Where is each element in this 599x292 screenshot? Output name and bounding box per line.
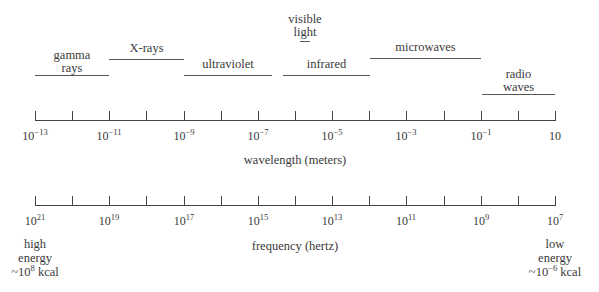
wavelength-tick-label: 10−9 [173, 129, 194, 144]
low-energy-line1: low [529, 237, 581, 251]
frequency-tick [35, 196, 36, 206]
frequency-tick [369, 196, 370, 206]
wavelength-tick [518, 111, 519, 121]
wavelength-tick-label: 10−5 [321, 129, 342, 144]
frequency-tick-label: 1011 [396, 214, 416, 229]
frequency-tick [481, 196, 482, 206]
band-label-line2: waves [503, 81, 534, 94]
wavelength-tick [109, 111, 110, 121]
wavelength-tick [221, 111, 222, 121]
wavelength-tick-label: 10−7 [247, 129, 268, 144]
frequency-tick-label: 1019 [99, 214, 120, 229]
band-line-visible [300, 41, 310, 42]
frequency-tick [406, 196, 407, 206]
frequency-tick [444, 196, 445, 206]
frequency-tick [332, 196, 333, 206]
wavelength-axis-title: wavelength (meters) [244, 153, 346, 168]
wavelength-tick [369, 111, 370, 121]
wavelength-tick-label: 10−1 [470, 129, 491, 144]
band-label-xrays: X-rays [129, 42, 163, 55]
wavelength-tick [444, 111, 445, 121]
band-label-gamma: gammarays [54, 49, 91, 75]
wavelength-tick-label: 10−13 [22, 129, 47, 144]
frequency-tick [258, 196, 259, 206]
frequency-tick [146, 196, 147, 206]
frequency-tick-label: 1013 [322, 214, 343, 229]
band-label-line2: light [288, 26, 321, 39]
band-label-line1: microwaves [395, 41, 455, 54]
high-energy-line1: high [11, 237, 58, 251]
band-line-gamma [35, 75, 109, 76]
frequency-tick [295, 196, 296, 206]
wavelength-tick [481, 111, 482, 121]
frequency-tick [72, 196, 73, 206]
wavelength-tick [35, 111, 36, 121]
frequency-tick-label: 107 [547, 214, 563, 229]
frequency-tick-label: 1021 [25, 214, 46, 229]
band-line-microwaves [370, 58, 481, 59]
frequency-tick [184, 196, 185, 206]
high-energy-label: high energy ~108 kcal [11, 237, 58, 279]
wavelength-tick-label: 10 [549, 129, 561, 144]
band-line-infrared [283, 75, 370, 76]
band-label-microwaves: microwaves [395, 41, 455, 54]
frequency-tick [109, 196, 110, 206]
band-label-line1: ultraviolet [202, 58, 253, 71]
wavelength-tick [184, 111, 185, 121]
band-label-line2: rays [54, 62, 91, 75]
band-label-infrared: infrared [307, 58, 347, 71]
band-line-xrays [109, 59, 184, 60]
frequency-tick-label: 109 [473, 214, 489, 229]
frequency-axis-title: frequency (hertz) [252, 239, 338, 254]
low-energy-label: low energy ~10−6 kcal [529, 237, 581, 279]
band-label-line1: infrared [307, 58, 347, 71]
wavelength-tick [332, 111, 333, 121]
frequency-tick [221, 196, 222, 206]
wavelength-tick [146, 111, 147, 121]
high-energy-value: ~108 kcal [11, 265, 58, 279]
wavelength-tick-label: 10−11 [97, 129, 122, 144]
band-label-visible: visiblelight [288, 13, 321, 39]
band-line-ultraviolet [184, 75, 272, 76]
band-label-ultraviolet: ultraviolet [202, 58, 253, 71]
wavelength-tick [258, 111, 259, 121]
frequency-tick [518, 196, 519, 206]
band-label-line1: X-rays [129, 42, 163, 55]
wavelength-tick [295, 111, 296, 121]
band-line-radio [482, 94, 555, 95]
frequency-tick [555, 196, 556, 206]
wavelength-tick-label: 10−3 [395, 129, 416, 144]
low-energy-value: ~10−6 kcal [529, 265, 581, 279]
wavelength-tick [555, 111, 556, 121]
frequency-tick-label: 1015 [248, 214, 269, 229]
wavelength-tick [406, 111, 407, 121]
wavelength-tick [72, 111, 73, 121]
band-label-radio: radiowaves [503, 68, 534, 94]
frequency-tick-label: 1017 [174, 214, 195, 229]
